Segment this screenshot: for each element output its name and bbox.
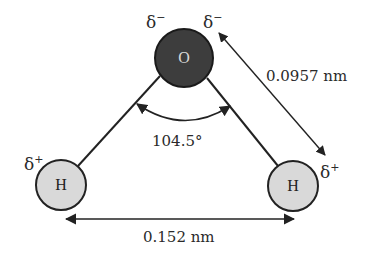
oxygen-partial-charge-right: δ−	[203, 14, 222, 31]
bond-length-arrow	[219, 33, 325, 155]
bond-length-label: 0.0957 nm	[266, 69, 347, 84]
h-h-distance-label: 0.152 nm	[143, 230, 215, 245]
bond-angle-arc	[137, 104, 230, 121]
water-molecule-diagram: O H H δ− δ− δ+ δ+ 0.0957 nm 104.5° 0.152…	[0, 0, 375, 261]
diagram-graphics	[0, 0, 375, 261]
bond-o-h-left	[78, 76, 160, 166]
hydrogen-left-symbol: H	[51, 177, 71, 193]
bond-angle-label: 104.5°	[152, 134, 202, 149]
hydrogen-right-symbol: H	[283, 178, 303, 194]
oxygen-symbol: O	[174, 50, 194, 66]
hydrogen-right-partial-charge: δ+	[320, 164, 339, 181]
oxygen-partial-charge-left: δ−	[146, 14, 165, 31]
bond-o-h-right	[207, 78, 278, 166]
hydrogen-left-partial-charge: δ+	[24, 156, 43, 173]
